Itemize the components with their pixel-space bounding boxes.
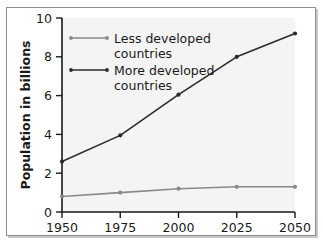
- legend-label-less-developed-line2: countries: [114, 46, 172, 61]
- x-tick-label-1950: 1950: [46, 220, 78, 235]
- y-tick-label-2: 2: [44, 166, 52, 181]
- chart-figure: 10 8 6 4 2 0 1950 1975 2000 2025 2050 Po…: [0, 0, 323, 244]
- data-point: [60, 194, 64, 198]
- y-tick-label-6: 6: [44, 88, 52, 103]
- line-chart-svg: 10 8 6 4 2 0 1950 1975 2000 2025 2050 Po…: [0, 0, 323, 244]
- plot-area-wrapper: 10 8 6 4 2 0 1950 1975 2000 2025 2050 Po…: [0, 0, 323, 244]
- y-tick-label-4: 4: [44, 127, 52, 142]
- y-axis-title: Population in billions: [18, 41, 33, 190]
- x-tick-marks: [62, 212, 295, 218]
- data-point: [60, 159, 64, 163]
- x-tick-label-2050: 2050: [279, 220, 311, 235]
- data-point: [176, 187, 180, 191]
- x-tick-label-1975: 1975: [104, 220, 136, 235]
- x-tick-label-2000: 2000: [163, 220, 195, 235]
- data-point: [235, 185, 239, 189]
- x-tick-label-2025: 2025: [221, 220, 253, 235]
- legend-label-less-developed-line1: Less developed: [114, 31, 211, 46]
- legend-label-more-developed-line2: countries: [114, 78, 172, 93]
- legend-dot-more-start: [69, 68, 73, 72]
- data-point: [118, 191, 122, 195]
- y-tick-marks: [56, 18, 62, 212]
- data-point: [176, 93, 180, 97]
- legend-dot-less-start: [69, 36, 73, 40]
- legend-label-more-developed-line1: More developed: [114, 63, 214, 78]
- data-point: [235, 55, 239, 59]
- legend-dot-more-end: [105, 68, 109, 72]
- data-point: [293, 31, 297, 35]
- y-tick-label-10: 10: [36, 11, 52, 26]
- data-point: [118, 133, 122, 137]
- data-point: [293, 185, 297, 189]
- y-tick-label-8: 8: [44, 49, 52, 64]
- y-tick-label-0: 0: [44, 205, 52, 220]
- legend-dot-less-end: [105, 36, 109, 40]
